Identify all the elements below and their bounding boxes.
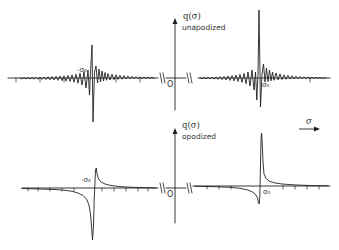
top-y-axis-arrowhead bbox=[173, 18, 178, 24]
top-origin-label: O bbox=[167, 81, 173, 89]
bottom-y-axis-label: q(σ) bbox=[182, 121, 200, 130]
bottom-right-apodized-curve bbox=[195, 133, 328, 204]
top-panel bbox=[8, 10, 330, 122]
bottom-axis-break-right bbox=[187, 183, 192, 193]
bottom-panel-caption: opodized bbox=[182, 133, 216, 141]
bottom-panel bbox=[22, 128, 330, 240]
top-y-axis-label: q(σ) bbox=[183, 12, 201, 21]
sigma-arrow-label: σ bbox=[306, 117, 312, 126]
top-panel-caption: unapodized bbox=[182, 24, 226, 32]
bottom-axis-break-left bbox=[160, 183, 165, 193]
bottom-right-peak-label: σ₀ bbox=[263, 189, 270, 196]
bottom-y-axis-arrowhead bbox=[173, 128, 178, 134]
figure-canvas bbox=[0, 0, 339, 250]
sigma-direction-arrow bbox=[299, 127, 320, 132]
bottom-origin-label: O bbox=[167, 191, 173, 199]
top-left-sinc-curve bbox=[20, 45, 154, 122]
bottom-left-peak-label: -σ₀ bbox=[81, 177, 91, 184]
top-right-peak-label: σ₀ bbox=[262, 82, 269, 89]
top-axis-break-left bbox=[160, 73, 165, 83]
top-axis-break-right bbox=[187, 73, 192, 83]
top-left-peak-label: -σ₀ bbox=[77, 67, 87, 74]
